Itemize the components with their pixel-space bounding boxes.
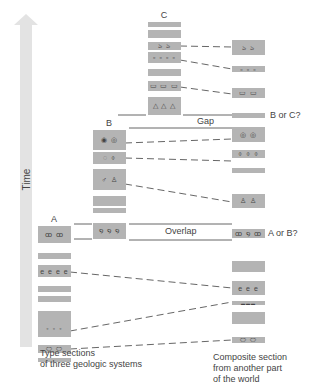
fossil-icon: ⬭ ⬭ xyxy=(240,337,257,343)
stratum-layer: ♙ ♙ xyxy=(232,194,265,208)
fossil-icon: ▬▬▬ xyxy=(241,301,256,305)
stratum-layer: ◎ ◎ xyxy=(232,127,265,142)
fossil-icon: ▫ ▫ ▫ ▫ xyxy=(153,54,176,61)
fossil-icon: ◉ ◎ xyxy=(101,136,118,144)
stratum-layer: ⬭ ⬭ xyxy=(232,337,265,343)
stratum-layer: ♂ ♙ xyxy=(93,169,126,190)
fossil-icon: ▭ ▭ ▭ xyxy=(150,82,180,90)
fossil-icon: ♂ ♙ xyxy=(101,176,117,184)
fossil-icon: ঌ ঌ xyxy=(158,42,171,50)
stratum-layer: ▭ ▭ ▭ xyxy=(148,81,181,91)
column-b-label: B xyxy=(93,118,125,128)
stratum-layer: ◦ ◦ ◦ xyxy=(38,311,71,337)
stratum-layer xyxy=(232,261,265,272)
stratum-layer: ◌ ⌽ xyxy=(93,152,126,164)
fossil-icon: ◎ ◎ xyxy=(240,131,257,139)
fossil-icon: ꝏ ໑ ꝏ xyxy=(235,230,262,238)
stratum-layer: ঌ ঌ xyxy=(148,42,181,50)
stratum-layer xyxy=(38,286,71,292)
fossil-icon: ▭ ▭ xyxy=(239,89,258,97)
stratum-layer: ▬▬▬ xyxy=(232,301,265,305)
stratum-layer xyxy=(38,296,71,302)
column-c-label: C xyxy=(148,10,180,20)
stratum-layer xyxy=(93,208,126,213)
gap-label: Gap xyxy=(197,116,214,127)
b-or-c-label: B or C? xyxy=(270,110,301,121)
stratum-layer: e e e xyxy=(232,281,265,295)
stratum-layer: ▭ ▭ xyxy=(232,88,265,98)
fossil-icon: ⌽ ⌽ ⌽ xyxy=(238,150,259,158)
stratum-layer: ▫ ▫ ▫ ▫ xyxy=(148,52,181,63)
stratum-layer: ꝏ ꝏ xyxy=(38,226,71,243)
stratum-layer xyxy=(148,69,181,76)
stratum-layer: ꝏ ໑ ꝏ xyxy=(232,229,265,238)
fossil-icon: e e e xyxy=(238,285,259,292)
composite-section-caption: Composite section from another part of t… xyxy=(213,352,287,385)
fossil-icon: △ △ △ xyxy=(153,102,177,110)
stratum-layer xyxy=(148,30,181,38)
fossil-icon: ◦ ◦ ◦ xyxy=(46,325,62,332)
fossil-icon: ♙ ♙ xyxy=(240,197,257,205)
stratum-layer: e e e e xyxy=(38,265,71,277)
stratum-layer xyxy=(232,312,265,324)
fossil-icon: e e e e xyxy=(40,268,68,275)
stratum-layer: ⌽ ⌽ ⌽ xyxy=(232,150,265,158)
type-sections-caption: Type sections of three geologic systems xyxy=(40,348,142,370)
stratum-layer xyxy=(148,22,181,27)
stratum-layer: △ △ △ xyxy=(148,97,181,115)
fossil-icon: ▫ ▫ ▫ xyxy=(240,66,256,72)
fossil-icon: ঌ ঌ xyxy=(242,42,255,54)
stratum-layer: ໑ ໑ ໑ xyxy=(93,223,126,239)
stratum-layer xyxy=(232,113,265,118)
column-a-label: A xyxy=(38,214,70,224)
fossil-icon: ໑ ໑ ໑ xyxy=(99,227,120,235)
stratum-layer: ঌ ঌ xyxy=(232,40,265,55)
fossil-icon: ꝏ ꝏ xyxy=(45,231,64,239)
overlap-label: Overlap xyxy=(165,226,197,237)
stratum-layer: ◉ ◎ xyxy=(93,130,126,150)
stratum-layer xyxy=(232,168,265,173)
a-or-b-label: A or B? xyxy=(268,228,298,239)
stratum-layer: ▫ ▫ ▫ xyxy=(232,66,265,72)
stratum-layer xyxy=(93,196,126,206)
fossil-icon: ◌ ⌽ xyxy=(103,154,116,162)
stratum-layer xyxy=(38,253,71,259)
